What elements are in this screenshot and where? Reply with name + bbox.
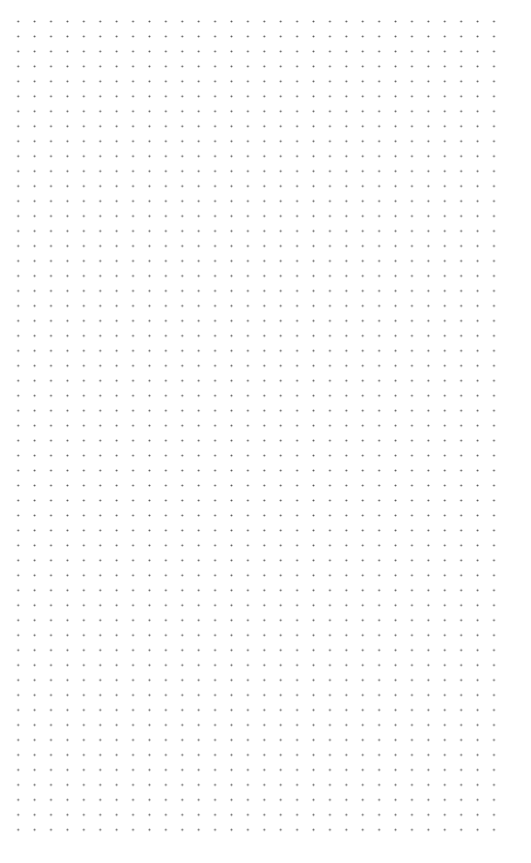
- dot-grid-canvas[interactable]: [0, 0, 531, 863]
- dot-grid-pattern: [10, 14, 503, 837]
